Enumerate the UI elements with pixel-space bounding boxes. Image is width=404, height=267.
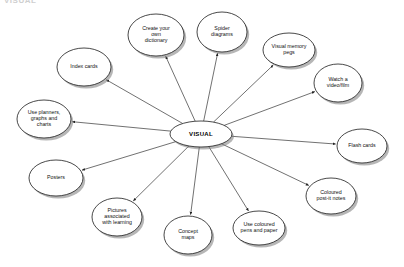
node-label-line: Coloured	[320, 189, 342, 195]
node-use-planners-graphs-charts[interactable]: Use planners,graphs andcharts	[17, 100, 71, 138]
node-label-line: maps	[182, 235, 195, 241]
node-label-line: Visual memory	[272, 43, 307, 49]
node-label-line: post-it notes	[317, 196, 346, 202]
node-label-line: Index cards	[70, 63, 98, 69]
node-label-line: pegs	[283, 50, 295, 56]
node-use-coloured-pens-paper[interactable]: Use colouredpens and paper	[233, 211, 285, 245]
node-label-line: pens and paper	[241, 228, 278, 234]
node-label-line: video/film	[327, 83, 350, 89]
center-node-label: VISUAL	[189, 131, 213, 137]
node-pictures-associated-learning[interactable]: Picturesassociatedwith learning	[92, 198, 142, 236]
node-label-flash-cards: Flash cards	[348, 142, 376, 148]
edge-center-to-visual-memory-pegs	[213, 65, 273, 122]
node-label-line: Concept	[178, 228, 198, 234]
node-label-line: Flash cards	[348, 142, 376, 148]
mindmap-svg: Create yourowndictionarySpiderdiagramsVi…	[0, 0, 404, 267]
node-concept-maps[interactable]: Conceptmaps	[164, 216, 212, 254]
node-label-line: Create your	[142, 25, 170, 31]
node-label-line: graphs and	[31, 115, 58, 121]
edge-center-to-coloured-post-it-notes	[221, 144, 308, 186]
edge-center-to-spider-diagrams	[204, 53, 218, 121]
node-label-posters: Posters	[47, 174, 65, 180]
node-label-line: diagrams	[211, 32, 233, 38]
edge-center-to-posters	[82, 142, 176, 170]
node-spider-diagrams[interactable]: Spiderdiagrams	[197, 12, 247, 52]
node-label-coloured-post-it-notes: Colouredpost-it notes	[317, 189, 346, 201]
node-flash-cards[interactable]: Flash cards	[337, 129, 387, 163]
node-label-line: dictionary	[145, 38, 168, 44]
edge-center-to-flash-cards	[232, 136, 336, 144]
edge-center-to-use-coloured-pens-paper	[209, 147, 249, 211]
node-label-line: Posters	[47, 174, 65, 180]
edge-center-to-concept-maps	[191, 147, 200, 215]
node-index-cards[interactable]: Index cards	[57, 48, 111, 86]
node-label-use-coloured-pens-paper: Use colouredpens and paper	[241, 221, 278, 233]
node-label-line: charts	[37, 122, 52, 128]
node-label-line: Spider	[214, 25, 230, 31]
spider-diagram-canvas: VISUAL Create yourowndictionarySpiderdia…	[0, 0, 404, 267]
node-label-line: Use coloured	[243, 221, 274, 227]
center-node-layer: VISUAL	[170, 121, 234, 150]
node-posters[interactable]: Posters	[29, 160, 83, 196]
node-label-line: own	[151, 31, 161, 37]
page-title: VISUAL	[4, 0, 36, 5]
node-visual-memory-pegs[interactable]: Visual memorypegs	[263, 33, 315, 67]
node-label-line: associated	[104, 213, 129, 219]
node-label-line: with learning	[102, 220, 132, 226]
center-node-visual[interactable]: VISUAL	[170, 121, 232, 147]
node-label-index-cards: Index cards	[70, 63, 98, 69]
edge-center-to-pictures-associated-learning	[133, 146, 189, 201]
node-label-line: Use planners,	[28, 109, 61, 115]
edge-center-to-create-dictionary	[166, 56, 196, 121]
node-label-watch-video-film: Watch avideo/film	[327, 76, 350, 88]
node-watch-video-film[interactable]: Watch avideo/film	[314, 64, 362, 102]
node-coloured-post-it-notes[interactable]: Colouredpost-it notes	[306, 178, 356, 214]
node-create-dictionary[interactable]: Create yourowndictionary	[128, 14, 184, 56]
edge-center-to-use-planners-graphs-charts	[72, 122, 171, 131]
edge-center-to-index-cards	[106, 80, 182, 124]
node-label-line: Pictures	[107, 207, 126, 213]
edge-center-to-watch-video-film	[224, 92, 315, 126]
node-label-line: Watch a	[328, 76, 347, 82]
